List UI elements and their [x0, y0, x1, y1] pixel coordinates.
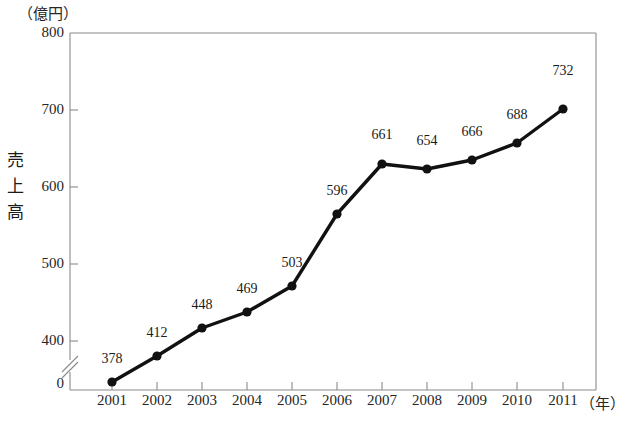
series-line-sales	[112, 109, 563, 382]
data-point-2010	[512, 138, 521, 147]
x-axis-ticks	[112, 382, 563, 390]
data-point-2005	[287, 281, 296, 290]
data-point-2003	[197, 323, 206, 332]
sales-line-chart: （億円） 売 上 高 800 700 600 500 400 0 2001 20…	[0, 0, 623, 424]
data-point-2006	[332, 209, 341, 218]
data-point-2011	[558, 104, 567, 113]
y-axis-ticks	[70, 110, 78, 341]
data-point-2009	[467, 155, 476, 164]
chart-canvas	[0, 0, 623, 424]
data-point-2002	[152, 351, 161, 360]
data-point-2008	[422, 164, 431, 173]
data-point-2004	[242, 307, 251, 316]
data-point-2007	[377, 159, 386, 168]
plot-frame	[70, 33, 596, 390]
data-point-2001	[107, 377, 116, 386]
